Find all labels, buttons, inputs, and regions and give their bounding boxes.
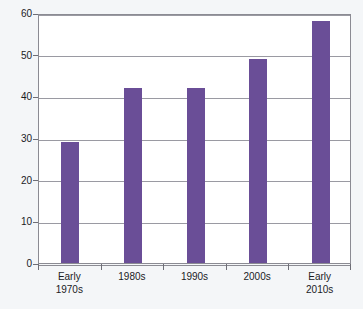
y-tick-label-20: 20 [21,176,32,186]
bar[interactable] [124,88,142,263]
y-tick-label-40: 40 [21,92,32,102]
x-tick-label: 1990s [181,270,208,283]
bar[interactable] [312,21,330,263]
y-tick-label-50: 50 [21,51,32,61]
y-tick-label-60: 60 [21,9,32,19]
plot-area [39,15,350,263]
x-tick-label: 2000s [243,270,270,283]
y-tick-label-30: 30 [21,134,32,144]
y-tick-label-10: 10 [21,217,32,227]
x-tick-label: 1980s [118,270,145,283]
x-axis: Early 1970s1980s1990s2000sEarly 2010s [38,270,351,306]
bar[interactable] [249,59,267,263]
y-axis: 0102030405060 [0,14,32,264]
y-tick-label-0: 0 [26,259,32,269]
bar[interactable] [61,142,79,263]
bar-chart-figure: 0102030405060 Early 1970s1980s1990s2000s… [0,0,363,309]
bar[interactable] [187,88,205,263]
x-tick-label: Early 1970s [56,270,83,296]
x-tick-label: Early 2010s [306,270,333,296]
bar-series [39,15,350,263]
plot-area-frame [38,14,351,264]
